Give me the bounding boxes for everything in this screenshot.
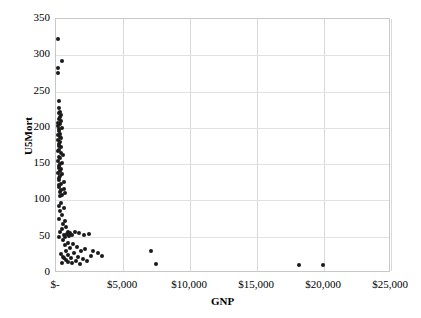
x-tick-label: $5,000 xyxy=(92,278,152,290)
x-tick-label: $20,000 xyxy=(293,278,353,290)
data-point xyxy=(63,243,67,247)
gridline-horizontal xyxy=(56,164,389,165)
gridline-horizontal xyxy=(56,237,389,238)
x-tick-label: $25,000 xyxy=(360,278,420,290)
gridline-horizontal xyxy=(56,92,389,93)
data-point xyxy=(149,249,153,253)
y-tick-label: 250 xyxy=(4,85,50,96)
data-point xyxy=(61,153,65,157)
x-axis-title: GNP xyxy=(55,295,390,307)
data-point xyxy=(60,213,64,217)
data-point xyxy=(71,242,75,246)
y-tick-label: 350 xyxy=(4,12,50,23)
gridline-vertical xyxy=(123,19,124,271)
data-point xyxy=(70,261,74,265)
y-tick-label: 0 xyxy=(4,266,50,277)
scatter-chart-figure: 050100150200250300350 $-$5,000$10,000$15… xyxy=(0,0,421,318)
x-tick-label: $10,000 xyxy=(159,278,219,290)
data-point xyxy=(57,217,61,221)
gridline-horizontal xyxy=(56,55,389,56)
data-point xyxy=(78,262,82,266)
gridline-vertical xyxy=(391,19,392,271)
data-point xyxy=(61,238,65,242)
x-tick-label: $- xyxy=(25,278,85,290)
data-point xyxy=(57,235,61,239)
data-point xyxy=(87,232,91,236)
data-point xyxy=(297,263,301,267)
data-point xyxy=(57,99,61,103)
data-point xyxy=(56,71,60,75)
data-point xyxy=(85,259,89,263)
data-point xyxy=(67,234,71,238)
data-point xyxy=(77,231,81,235)
gridline-horizontal xyxy=(56,128,389,129)
data-point xyxy=(83,247,87,251)
data-point xyxy=(60,261,64,265)
data-point xyxy=(57,204,61,208)
data-point xyxy=(154,262,158,266)
gridline-vertical xyxy=(190,19,191,271)
data-point xyxy=(75,245,79,249)
data-point xyxy=(68,246,72,250)
y-axis-title: U5Mort xyxy=(22,96,34,176)
data-point xyxy=(60,59,64,63)
data-point xyxy=(89,254,93,258)
data-point xyxy=(73,230,77,234)
gridline-vertical xyxy=(324,19,325,271)
data-point xyxy=(74,259,78,263)
data-point xyxy=(56,66,60,70)
gridline-vertical xyxy=(257,19,258,271)
y-tick-label: 100 xyxy=(4,193,50,204)
data-point xyxy=(58,194,62,198)
data-point xyxy=(91,249,95,253)
data-point xyxy=(100,254,104,258)
gridline-horizontal xyxy=(56,200,389,201)
plot-area xyxy=(55,18,390,272)
x-tick-label: $15,000 xyxy=(226,278,286,290)
data-point xyxy=(96,251,100,255)
data-point xyxy=(79,249,83,253)
x-axis-tick-labels: $-$5,000$10,000$15,000$20,000$25,000 xyxy=(55,278,390,294)
y-tick-label: 50 xyxy=(4,230,50,241)
y-tick-label: 300 xyxy=(4,48,50,59)
data-point xyxy=(321,263,325,267)
data-point xyxy=(56,37,60,41)
data-point xyxy=(62,206,66,210)
data-point xyxy=(64,225,68,229)
